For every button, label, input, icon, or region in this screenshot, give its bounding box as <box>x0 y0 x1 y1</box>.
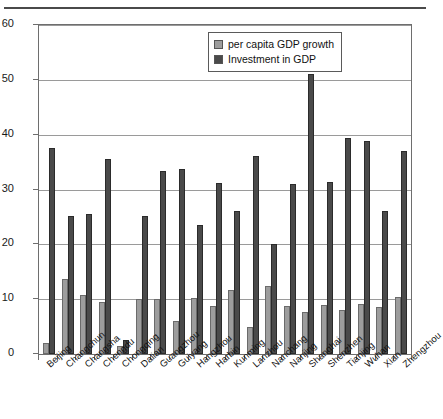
bar <box>401 151 407 354</box>
y-axis-tick-label: 10 <box>0 292 14 303</box>
bar-group <box>299 25 318 354</box>
x-axis-label-cell: Shenzhen <box>319 361 338 419</box>
bar <box>179 169 185 354</box>
y-axis-tick-label: 30 <box>0 183 14 194</box>
legend-item[interactable]: Investment in GDP <box>214 52 334 67</box>
x-axis-label-cell: Hangzhou <box>188 361 207 419</box>
bar <box>105 159 111 354</box>
bar-group <box>133 25 152 354</box>
bar <box>216 183 222 354</box>
x-axis-label-cell: Chongqing <box>113 361 132 419</box>
x-axis-label-cell: Nanchang <box>262 361 281 419</box>
y-axis-tick-label: 40 <box>0 128 14 139</box>
bar-group <box>188 25 207 354</box>
x-axis-label-cell: Zhengzhou <box>393 361 412 419</box>
bar-group <box>170 25 189 354</box>
bar <box>382 211 388 354</box>
bar <box>308 74 314 354</box>
bar <box>68 216 74 354</box>
x-axis-label-cell: Changsha <box>75 361 94 419</box>
y-axis-tick-label: 50 <box>0 73 14 84</box>
bar-group <box>336 25 355 354</box>
y-axis-tick-label: 20 <box>0 237 14 248</box>
legend-label: Investment in GDP <box>228 54 316 65</box>
bar-group <box>281 25 300 354</box>
bar-group <box>40 25 59 354</box>
bar-group <box>355 25 374 354</box>
legend-label: per capita GDP growth <box>228 39 334 50</box>
bar-group <box>262 25 281 354</box>
bar-group <box>244 25 263 354</box>
y-axis-tick-label: 60 <box>0 18 14 29</box>
x-axis-label-cell: Chengdu <box>94 361 113 419</box>
x-axis-label-cell: Dalian <box>132 361 151 419</box>
bar-group <box>373 25 392 354</box>
bar-group <box>207 25 226 354</box>
x-axis-label-cell: Guiyang <box>169 361 188 419</box>
plot-area <box>38 24 412 355</box>
x-axis-label-cell: Beijing <box>38 361 57 419</box>
x-axis-label-cell: Harbin <box>206 361 225 419</box>
legend-swatch-icon <box>214 55 223 64</box>
bar-group <box>392 25 411 354</box>
bar <box>234 211 240 354</box>
bar-group <box>225 25 244 354</box>
x-axis-label-cell: Wuhan <box>356 361 375 419</box>
bar <box>160 171 166 354</box>
x-axis-labels: BeijingChangchunChangshaChengduChongqing… <box>38 361 412 419</box>
x-axis-label-cell: Kunming <box>225 361 244 419</box>
bar <box>253 156 259 354</box>
x-axis-label-cell: Shanghai <box>300 361 319 419</box>
bar <box>345 138 351 354</box>
y-axis-tick-label: 0 <box>0 347 14 358</box>
x-axis-label-cell: Tianjing <box>337 361 356 419</box>
bar-group <box>96 25 115 354</box>
x-axis-label-cell: Changchun <box>57 361 76 419</box>
x-axis-label-cell: Xian <box>375 361 394 419</box>
chart-legend: per capita GDP growthInvestment in GDP <box>208 32 342 72</box>
bar-chart: 0102030405060 BeijingChangchunChangshaCh… <box>0 14 430 419</box>
page-header-rule <box>4 7 426 9</box>
legend-item[interactable]: per capita GDP growth <box>214 37 334 52</box>
bar <box>86 214 92 354</box>
bar <box>49 148 55 354</box>
x-axis-label-cell: Nanjing <box>281 361 300 419</box>
bar-series-container <box>39 25 411 354</box>
legend-swatch-icon <box>214 40 223 49</box>
bar-group <box>59 25 78 354</box>
bar <box>364 141 370 354</box>
bar-group <box>318 25 337 354</box>
bar-group <box>114 25 133 354</box>
bar <box>327 182 333 354</box>
bar <box>142 216 148 354</box>
bar-group <box>77 25 96 354</box>
bar <box>290 184 296 354</box>
bar-group <box>151 25 170 354</box>
x-axis-label-cell: Lanzhou <box>244 361 263 419</box>
x-axis-label-cell: Guangzhou <box>150 361 169 419</box>
